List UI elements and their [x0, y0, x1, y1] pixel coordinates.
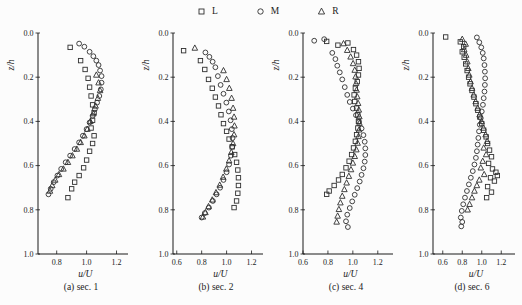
data-point-triangle [221, 67, 227, 72]
data-point-square [489, 190, 493, 194]
data-point-circle [361, 166, 366, 171]
data-point-circle [481, 96, 486, 101]
x-tick-label: 0.6 [172, 258, 182, 267]
data-point-square [72, 180, 76, 184]
triangle-marker-icon [316, 6, 327, 17]
data-point-triangle [224, 76, 230, 81]
y-tick-label: 0.2 [24, 73, 34, 82]
data-point-square [219, 113, 223, 117]
y-tick-label: 0.2 [289, 73, 299, 82]
data-point-circle [470, 169, 475, 174]
legend-item-r: R [316, 5, 338, 17]
panel-sec2-caption: (b) sec. 2 [169, 282, 263, 292]
data-point-square [84, 158, 88, 162]
data-point-circle [482, 63, 487, 68]
data-point-circle [463, 195, 468, 200]
data-point-circle [340, 77, 345, 82]
data-point-triangle [478, 165, 484, 170]
data-point-circle [474, 155, 479, 160]
plot-canvas: 0.00.20.40.60.81.00.60.81.01.2u/Uz/h [398, 25, 522, 305]
data-point-square [86, 76, 90, 80]
plot-canvas: 0.00.20.40.60.81.00.60.81.01.2u/Uz/h [135, 25, 268, 305]
data-point-triangle [467, 201, 473, 206]
y-tick-label: 0.8 [24, 206, 34, 215]
y-tick-label: 0.0 [289, 29, 299, 38]
legend-label-r: R [332, 5, 338, 17]
data-point-triangle [192, 45, 198, 50]
data-point-square [340, 172, 344, 176]
y-tick-label: 1.0 [159, 250, 169, 259]
data-point-circle [466, 182, 471, 187]
data-point-triangle [469, 195, 475, 200]
data-point-circle [345, 225, 350, 230]
y-tick-label: 0.8 [159, 206, 169, 215]
data-point-circle [475, 142, 480, 147]
velocity-profile-figure: L M R 0.00.20.40.60.81.00.81.01.2u/Uz/h … [0, 0, 522, 305]
data-point-circle [465, 189, 470, 194]
data-point-triangle [334, 219, 340, 224]
data-point-circle [482, 89, 487, 94]
data-point-circle [87, 49, 92, 54]
x-tick-label: 1.0 [348, 258, 358, 267]
data-point-square [181, 48, 185, 52]
x-axis-label: u/U [469, 269, 484, 279]
data-point-triangle [357, 113, 363, 118]
data-point-triangle [229, 95, 235, 100]
data-point-square [216, 104, 220, 108]
data-point-square [354, 53, 358, 57]
data-point-circle [213, 65, 218, 70]
plot-canvas: 0.00.20.40.60.81.00.81.01.2u/Uz/h [0, 25, 135, 305]
data-point-triangle [342, 186, 348, 191]
data-point-triangle [348, 54, 354, 59]
data-point-square [344, 166, 348, 170]
data-point-square [87, 85, 91, 89]
y-tick-label: 1.0 [24, 250, 34, 259]
data-point-triangle [220, 174, 226, 179]
data-point-circle [474, 149, 479, 154]
data-point-circle [330, 50, 335, 55]
data-point-square [81, 166, 85, 170]
data-point-square [487, 148, 491, 152]
y-axis-label: z/h [401, 59, 411, 71]
y-tick-label: 1.0 [419, 250, 429, 259]
y-tick-label: 0.0 [24, 29, 34, 38]
data-point-circle [476, 136, 481, 141]
data-point-triangle [227, 85, 233, 90]
panel-sec2-plot: 0.00.20.40.60.81.00.60.81.01.2u/Uz/h [135, 25, 268, 305]
data-point-square [236, 183, 240, 187]
data-point-circle [342, 85, 347, 90]
data-point-triangle [344, 47, 350, 52]
data-point-circle [481, 102, 486, 107]
legend-label-m: M [271, 5, 279, 17]
data-point-circle [224, 170, 229, 175]
data-point-circle [215, 74, 220, 79]
data-point-triangle [472, 188, 478, 193]
data-point-square [485, 184, 489, 188]
data-point-circle [350, 199, 355, 204]
data-point-square [234, 160, 238, 164]
data-point-circle [468, 175, 473, 180]
x-tick-label: 1.0 [82, 258, 92, 267]
data-point-square [332, 183, 336, 187]
data-point-circle [207, 54, 212, 59]
data-point-circle [347, 206, 352, 211]
data-point-triangle [217, 182, 223, 187]
data-point-circle [98, 68, 103, 73]
x-tick-label: 0.8 [52, 258, 62, 267]
data-point-circle [333, 57, 338, 62]
y-tick-label: 0.2 [159, 73, 169, 82]
data-point-square [484, 195, 488, 199]
data-point-triangle [335, 213, 341, 218]
data-point-square [78, 58, 82, 62]
panel-sec6-plot: 0.00.20.40.60.81.00.60.81.01.2u/Uz/h [398, 25, 522, 305]
data-point-triangle [355, 100, 361, 105]
data-point-square [236, 191, 240, 195]
series-R [192, 45, 237, 219]
data-point-circle [203, 50, 208, 55]
data-point-circle [483, 76, 488, 81]
x-tick-label: 0.8 [457, 258, 467, 267]
data-point-triangle [344, 180, 350, 185]
data-point-circle [363, 153, 368, 158]
data-point-triangle [354, 87, 360, 92]
data-point-circle [77, 41, 82, 46]
